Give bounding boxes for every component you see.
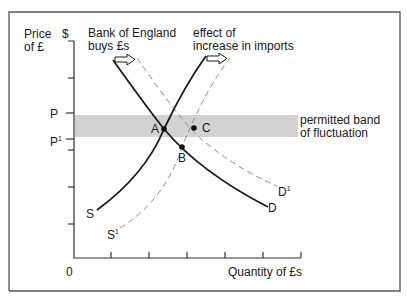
demand-shifted-sup: 1 (287, 185, 291, 192)
point-c-label: C (202, 122, 211, 135)
demand-shifted-text: D (278, 185, 287, 199)
price-level-p-text: P (50, 107, 58, 121)
y-axis-unit: $ (62, 28, 69, 41)
y-axis-label-line2: of £ (24, 41, 51, 54)
x-axis-label: Quantity of £s (228, 266, 302, 279)
origin-label: 0 (66, 266, 73, 279)
supply-shifted-label: S1 (107, 225, 119, 242)
y-axis-label: Price of £ (24, 28, 51, 54)
price-level-p1-text: P (50, 135, 58, 149)
annotation-bank-of-england: Bank of England buys £s (88, 27, 176, 53)
point-c-marker (191, 125, 197, 131)
point-b-marker (179, 144, 185, 150)
permitted-band (75, 115, 298, 137)
point-a-marker (161, 126, 167, 132)
supply-shifted-text: S (107, 228, 115, 242)
annotation-right-line2: increase in imports (193, 40, 294, 53)
annotation-imports: effect of increase in imports (193, 27, 294, 53)
demand-label: D (268, 202, 277, 215)
price-level-p1: P1 (50, 132, 62, 149)
point-b-label: B (178, 152, 186, 165)
shift-arrow-demand (115, 54, 135, 65)
annotation-left-line2: buys £s (88, 40, 176, 53)
demand-shifted-label: D1 (278, 182, 291, 199)
supply-curve-shifted (120, 58, 230, 228)
frame-border (9, 12, 400, 291)
price-level-p: P (50, 108, 58, 121)
shift-arrow-supply (207, 53, 227, 64)
supply-shifted-sup: 1 (115, 228, 119, 235)
supply-label: S (86, 208, 94, 221)
band-label: permitted band of fluctuation (300, 114, 380, 140)
band-label-line2: of fluctuation (300, 127, 380, 140)
point-a-label: A (151, 123, 159, 136)
price-level-p1-sup: 1 (58, 135, 62, 142)
